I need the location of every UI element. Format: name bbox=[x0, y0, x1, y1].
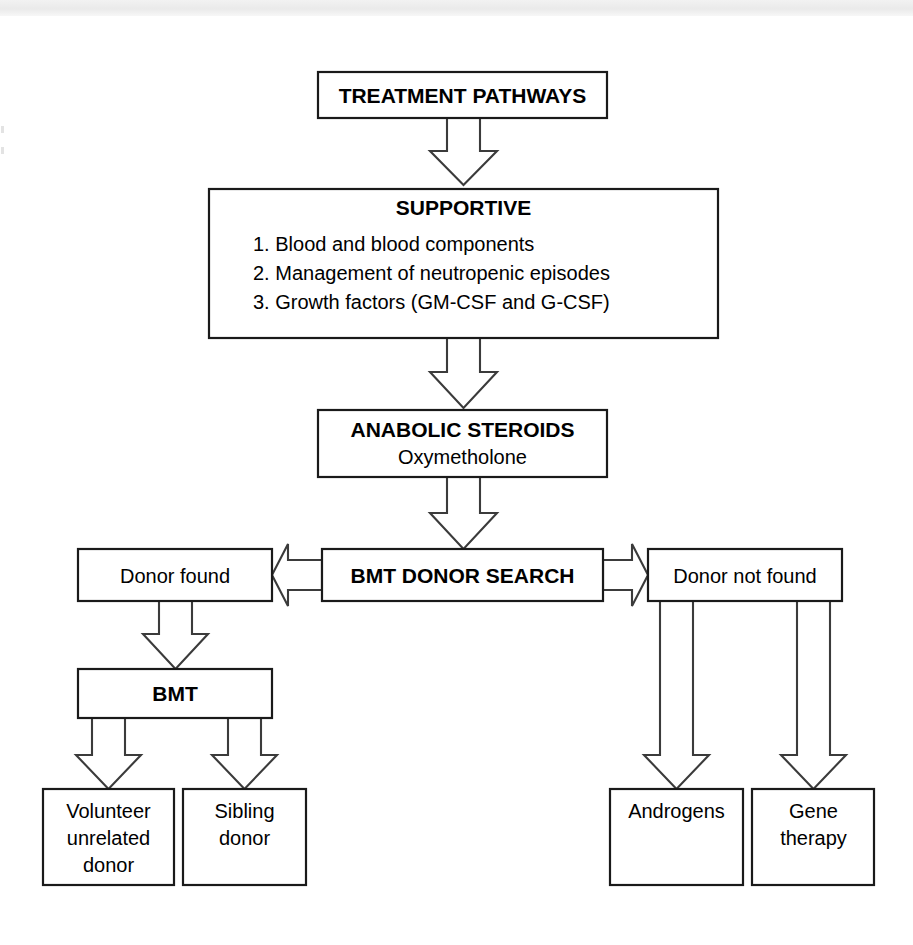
arrow-bmt-to-sibling-donor bbox=[212, 718, 277, 789]
diagram-page: TREATMENT PATHWAYS SUPPORTIVE 1. Blood a… bbox=[0, 0, 913, 945]
node-gene-therapy: Gene therapy bbox=[752, 789, 874, 885]
node-anabolic-steroids: ANABOLIC STEROIDS Oxymetholone bbox=[318, 410, 607, 477]
node-treatment-pathways-label: TREATMENT PATHWAYS bbox=[339, 84, 587, 107]
node-anabolic-steroids-subtitle: Oxymetholone bbox=[398, 446, 527, 468]
node-volunteer-unrelated-donor-line-3: donor bbox=[83, 854, 134, 876]
node-androgens-label: Androgens bbox=[628, 800, 725, 822]
node-sibling-donor-line-2: donor bbox=[219, 827, 270, 849]
arrow-donor-found-to-bmt bbox=[143, 601, 208, 669]
node-supportive-item-1: 1. Blood and blood components bbox=[253, 233, 534, 255]
arrow-bmt-to-volunteer-donor bbox=[76, 718, 141, 789]
node-sibling-donor: Sibling donor bbox=[183, 789, 306, 885]
node-supportive: SUPPORTIVE 1. Blood and blood components… bbox=[209, 189, 718, 338]
node-gene-therapy-line-1: Gene bbox=[789, 800, 838, 822]
node-bmt: BMT bbox=[78, 669, 272, 718]
arrow-bmt-search-to-donor-found bbox=[272, 544, 322, 606]
node-gene-therapy-line-2: therapy bbox=[780, 827, 847, 849]
treatment-pathways-flowchart: TREATMENT PATHWAYS SUPPORTIVE 1. Blood a… bbox=[0, 0, 913, 945]
node-bmt-label: BMT bbox=[152, 682, 198, 705]
node-donor-not-found-label: Donor not found bbox=[673, 565, 816, 587]
arrow-bmt-search-to-donor-not-found bbox=[603, 544, 648, 606]
node-supportive-item-3: 3. Growth factors (GM-CSF and G-CSF) bbox=[253, 291, 610, 313]
node-bmt-donor-search-label: BMT DONOR SEARCH bbox=[351, 564, 575, 587]
node-androgens: Androgens bbox=[610, 789, 743, 885]
node-bmt-donor-search: BMT DONOR SEARCH bbox=[322, 549, 603, 601]
node-volunteer-unrelated-donor-line-2: unrelated bbox=[67, 827, 150, 849]
arrow-donor-not-found-to-androgens bbox=[644, 601, 709, 789]
arrow-root-to-supportive bbox=[430, 118, 497, 185]
node-supportive-item-2: 2. Management of neutropenic episodes bbox=[253, 262, 610, 284]
arrow-donor-not-found-to-gene-therapy bbox=[781, 601, 846, 789]
node-donor-found-label: Donor found bbox=[120, 565, 230, 587]
node-treatment-pathways: TREATMENT PATHWAYS bbox=[318, 72, 607, 118]
node-supportive-heading: SUPPORTIVE bbox=[396, 196, 531, 219]
node-volunteer-unrelated-donor-line-1: Volunteer bbox=[66, 800, 151, 822]
node-donor-not-found: Donor not found bbox=[648, 549, 842, 601]
node-volunteer-unrelated-donor: Volunteer unrelated donor bbox=[43, 789, 174, 885]
node-anabolic-steroids-heading: ANABOLIC STEROIDS bbox=[350, 418, 574, 441]
node-donor-found: Donor found bbox=[78, 549, 272, 601]
node-sibling-donor-line-1: Sibling bbox=[214, 800, 274, 822]
arrow-supportive-to-anabolic bbox=[430, 338, 497, 408]
arrow-anabolic-to-bmt-search bbox=[430, 477, 497, 549]
